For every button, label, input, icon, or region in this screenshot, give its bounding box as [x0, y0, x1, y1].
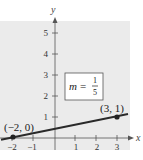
x-tick-label: 2 — [95, 142, 100, 152]
slope-numerator: 1 — [93, 76, 97, 85]
point-label-a: (−2, 0) — [4, 121, 34, 134]
x-tick-label: 3 — [115, 142, 120, 152]
y-tick-label: 3 — [44, 70, 49, 80]
slope-chart: x −2 −1 1 2 3 y 1 2 3 4 5 (−2, 0) (3, 1) — [0, 0, 143, 160]
slope-annotation: m = 1 5 — [65, 73, 103, 100]
point-marker-b — [114, 114, 119, 119]
x-tick-label: 1 — [74, 142, 79, 152]
y-tick-label: 1 — [44, 112, 49, 122]
slope-equals: = — [80, 80, 86, 92]
x-axis-arrow-icon — [128, 136, 134, 141]
y-tick-label: 4 — [44, 49, 49, 59]
y-tick-label: 2 — [44, 91, 49, 101]
slope-variable: m — [69, 80, 77, 92]
y-tick-label: 5 — [44, 28, 49, 38]
x-tick-label: −2 — [7, 142, 17, 152]
y-axis-label: y — [50, 4, 56, 15]
point-marker-a — [10, 134, 15, 139]
x-axis-label: x — [135, 132, 141, 143]
slope-denominator: 5 — [93, 88, 97, 97]
point-label-b: (3, 1) — [100, 102, 124, 115]
y-axis-arrow-icon — [53, 17, 58, 23]
x-tick-label: −1 — [27, 142, 37, 152]
